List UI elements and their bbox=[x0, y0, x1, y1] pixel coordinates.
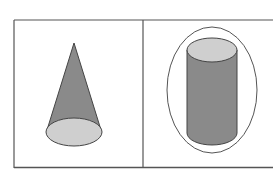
geometry-diagram bbox=[0, 0, 273, 169]
cylinder-in-ellipse bbox=[167, 27, 257, 153]
cone-shape bbox=[46, 43, 102, 146]
cylinder-top bbox=[187, 38, 237, 62]
